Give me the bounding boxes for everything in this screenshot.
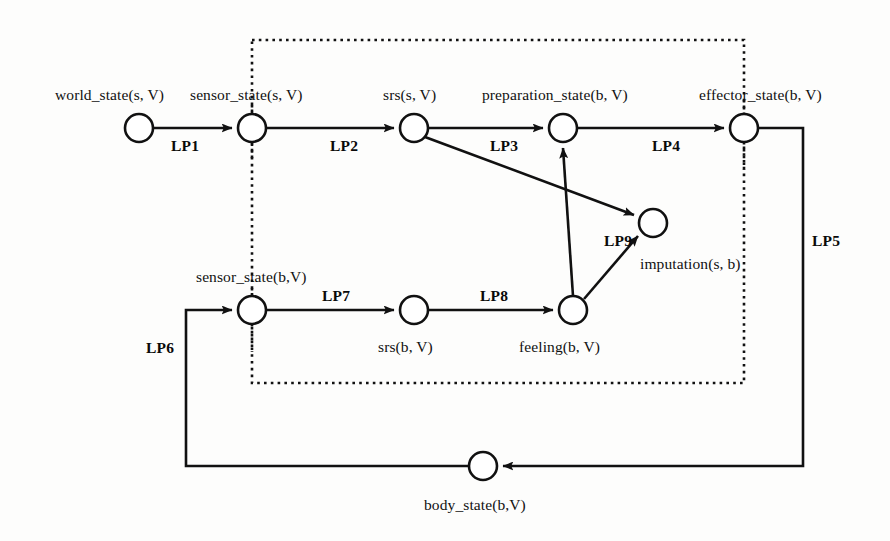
label-world-state: world_state(s, V) [55, 86, 164, 104]
label-edge-LP9: LP9 [604, 232, 632, 250]
node-preparation-state[interactable] [549, 114, 577, 142]
node-sensor-state-s[interactable] [238, 114, 266, 142]
label-edge-LP4: LP4 [652, 137, 680, 155]
label-edge-LP7: LP7 [322, 287, 350, 305]
label-preparation-state: preparation_state(b, V) [482, 86, 628, 104]
node-world-state[interactable] [125, 114, 153, 142]
label-edge-LP1: LP1 [171, 137, 199, 155]
node-feeling[interactable] [559, 296, 587, 324]
node-body-state[interactable] [469, 452, 497, 480]
label-sensor-state-b: sensor_state(b,V) [196, 268, 307, 286]
edge-LP6 [186, 310, 469, 466]
label-srs-s: srs(s, V) [383, 86, 436, 104]
label-edge-LP8: LP8 [480, 287, 508, 305]
node-imputation[interactable] [639, 209, 667, 237]
label-sensor-state-s: sensor_state(s, V) [190, 86, 303, 104]
node-srs-s[interactable] [400, 114, 428, 142]
label-edge-LP6: LP6 [146, 339, 174, 357]
edge-feeling-to-preparation-state [563, 148, 573, 296]
label-edge-LP3: LP3 [490, 137, 518, 155]
label-effector-state: effector_state(b, V) [699, 86, 822, 104]
edge-srs-s-to-imputation [425, 137, 634, 215]
label-imputation: imputation(s, b) [640, 255, 741, 273]
diagram-graphics [0, 0, 890, 541]
label-body-state: body_state(b,V) [424, 496, 526, 514]
node-effector-state[interactable] [730, 114, 758, 142]
edge-LP5 [503, 128, 803, 466]
label-edge-LP5: LP5 [812, 232, 840, 250]
node-sensor-state-b[interactable] [238, 296, 266, 324]
diagram-canvas: world_state(s, V) sensor_state(s, V) srs… [0, 0, 890, 541]
label-edge-LP2: LP2 [330, 137, 358, 155]
node-srs-b[interactable] [400, 296, 428, 324]
label-feeling: feeling(b, V) [519, 338, 600, 356]
label-srs-b: srs(b, V) [378, 338, 433, 356]
